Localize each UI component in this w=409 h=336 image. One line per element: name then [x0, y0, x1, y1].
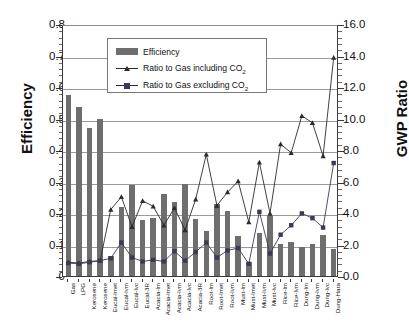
- x-axis-tick: [67, 279, 68, 282]
- x-axis-tick-label-10: Acacia-lvm: [176, 283, 182, 313]
- x-axis-tick-label-9: Acacia-lmet: [165, 283, 171, 315]
- data-point-including-co2-18: [257, 160, 262, 165]
- x-axis-tick-label-23: Dung-lvm: [314, 283, 320, 309]
- y2-axis-tick-label: 6.0: [343, 177, 385, 189]
- x-axis-tick-label-21: Rice-lvm: [293, 283, 299, 307]
- x-axis-tick-label-11: Acacia-lvc: [186, 283, 192, 311]
- data-point-including-co2-9: [161, 223, 166, 228]
- y2-axis-minor-tick: [338, 271, 342, 272]
- x-axis-tick: [258, 279, 259, 282]
- x-axis-tick-label-20: Rice-lm: [282, 283, 288, 304]
- data-point-excluding-co2-18: [257, 210, 261, 214]
- y-axis-tick-label: 0.8: [25, 19, 65, 31]
- y2-axis-minor-tick: [338, 69, 342, 70]
- data-point-including-co2-13: [204, 152, 209, 157]
- chart-figure: Efficiency GWP Ratio 00.10.20.30.40.50.6…: [0, 0, 409, 336]
- data-point-excluding-co2-13: [204, 240, 208, 244]
- y2-axis-tick-label: 16.0: [343, 19, 385, 31]
- x-axis-tick-label-8: Acacia-lm: [155, 283, 161, 310]
- data-point-excluding-co2-24: [321, 225, 325, 229]
- x-axis-tick-label-7: Eucal-3R: [144, 283, 150, 308]
- data-point-including-co2-24: [320, 153, 325, 158]
- y2-axis-minor-tick: [338, 201, 342, 202]
- y2-axis-minor-tick: [338, 252, 342, 253]
- x-axis-labels: GasLPGKeroseneKeroseneEucal-lmetEucal-lv…: [62, 279, 338, 336]
- x-axis-tick-label-3: Kerosene: [102, 283, 108, 310]
- data-point-excluding-co2-2: [87, 260, 91, 264]
- legend-label-efficiency: Efficiency: [143, 47, 180, 57]
- x-axis-tick: [120, 279, 121, 282]
- y2-axis-tick-label: 2.0: [343, 240, 385, 252]
- y2-axis-minor-tick: [338, 132, 342, 133]
- data-point-excluding-co2-0: [66, 261, 70, 265]
- x-axis-tick-label-2: Kerosene: [91, 283, 97, 310]
- x-axis-tick: [184, 279, 185, 282]
- data-point-excluding-co2-8: [151, 258, 155, 262]
- data-point-including-co2-25: [331, 55, 336, 60]
- data-point-excluding-co2-22: [300, 211, 304, 215]
- data-point-including-co2-11: [182, 227, 187, 232]
- y-axis-tick-label: 0.5: [25, 114, 65, 126]
- x-axis-tick: [78, 279, 79, 282]
- x-axis-tick-label-4: Eucal-lmet: [112, 283, 118, 312]
- x-axis-tick: [248, 279, 249, 282]
- x-axis-tick-label-19: Must-lvc: [271, 283, 277, 306]
- x-axis-tick: [110, 279, 111, 282]
- x-axis-tick-label-16: Must-lm: [240, 283, 246, 305]
- x-axis-tick-label-0: Gas: [70, 283, 76, 294]
- data-point-including-co2-6: [129, 224, 134, 229]
- y2-axis-minor-tick: [338, 138, 342, 139]
- y2-axis-minor-tick: [338, 258, 342, 259]
- legend-item-efficiency: Efficiency: [116, 43, 260, 60]
- y-axis-tick-label: 0.4: [25, 145, 65, 157]
- y2-axis-minor-tick: [338, 164, 342, 165]
- y2-axis-minor-tick: [338, 220, 342, 221]
- legend-label-subscript: 2: [245, 84, 248, 91]
- y2-axis-minor-tick: [338, 264, 342, 265]
- square-marker-icon: [124, 83, 130, 89]
- x-axis-tick: [142, 279, 143, 282]
- data-point-excluding-co2-5: [119, 240, 123, 244]
- x-axis-tick: [280, 279, 281, 282]
- y2-axis-tick-label: 4.0: [343, 208, 385, 220]
- y2-axis-minor-tick: [338, 170, 342, 171]
- x-axis-tick: [163, 279, 164, 282]
- y2-axis-minor-tick: [338, 126, 342, 127]
- x-axis-tick-label-25: Dung-Hara: [335, 283, 341, 313]
- y2-axis-minor-tick: [338, 38, 342, 39]
- data-point-excluding-co2-12: [193, 250, 197, 254]
- x-axis-tick: [301, 279, 302, 282]
- data-point-including-co2-16: [236, 179, 241, 184]
- triangle-marker-icon: [124, 66, 130, 71]
- y-axis-tick-label: 0.2: [25, 208, 65, 220]
- y2-axis-minor-tick: [338, 195, 342, 196]
- x-axis-tick: [237, 279, 238, 282]
- x-axis-tick: [216, 279, 217, 282]
- data-point-including-co2-17: [246, 219, 251, 224]
- x-axis-tick-label-12: Acacia-3R: [197, 283, 203, 312]
- data-point-excluding-co2-21: [289, 223, 293, 227]
- data-point-including-co2-12: [193, 197, 198, 202]
- y2-axis-minor-tick: [338, 145, 342, 146]
- y2-axis-minor-tick: [338, 44, 342, 45]
- y-axis-tick-label: 0.3: [25, 177, 65, 189]
- y2-axis-tick-label: 0.0: [343, 271, 385, 283]
- x-axis-tick: [269, 279, 270, 282]
- y2-axis-minor-tick: [338, 75, 342, 76]
- x-axis-tick-label-17: Must-lmet: [250, 283, 256, 310]
- legend-label-ratio-excluding-co2: Ratio to Gas excluding CO2: [143, 80, 248, 92]
- data-point-excluding-co2-15: [225, 248, 229, 252]
- x-axis-tick: [290, 279, 291, 282]
- x-axis-tick: [322, 279, 323, 282]
- data-point-excluding-co2-16: [236, 246, 240, 250]
- x-axis-tick-label-14: Root-lmet: [218, 283, 224, 310]
- data-point-excluding-co2-9: [162, 259, 166, 263]
- x-axis-tick-label-15: Root-lvm: [229, 283, 235, 308]
- x-axis-tick: [152, 279, 153, 282]
- data-point-including-co2-10: [172, 205, 177, 210]
- x-axis-tick-label-5: Eucal-lvm: [123, 283, 129, 310]
- x-axis-tick: [195, 279, 196, 282]
- data-point-excluding-co2-20: [278, 232, 282, 236]
- data-point-including-co2-8: [151, 204, 156, 209]
- y2-axis-tick-label: 14.0: [343, 51, 385, 63]
